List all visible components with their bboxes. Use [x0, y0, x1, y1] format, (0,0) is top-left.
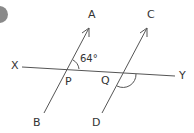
label-p: P	[65, 76, 72, 87]
angle-label-64: 64°	[80, 54, 98, 64]
angle-arc-p	[73, 60, 79, 69]
label-q: Q	[101, 75, 110, 86]
label-b: B	[33, 117, 41, 128]
label-x: X	[11, 60, 19, 71]
label-y: Y	[179, 70, 186, 81]
parallel-lines-diagram	[0, 0, 194, 133]
label-c: C	[147, 9, 155, 20]
angle-arc-q	[117, 74, 136, 87]
line-xy	[22, 67, 175, 76]
label-d: D	[92, 117, 100, 128]
label-a: A	[88, 9, 96, 20]
line-dc	[102, 28, 147, 113]
